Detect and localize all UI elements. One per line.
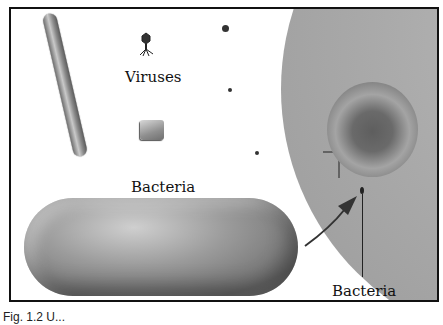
cubic-virus [140, 120, 164, 140]
bacteriophage-icon [140, 33, 153, 56]
red-blood-cell [327, 82, 418, 177]
bacteria-small-label: Bacteria [332, 282, 396, 300]
spherical-virus-small [228, 88, 232, 92]
leader-line [362, 194, 363, 277]
small-bacterium [360, 187, 364, 194]
large-bacterium [24, 198, 298, 296]
figure-caption: Fig. 1.2 U... [3, 310, 65, 324]
arrow-icon [305, 196, 357, 246]
viruses-label: Viruses [125, 68, 181, 86]
bacteria-label: Bacteria [131, 178, 195, 196]
spherical-virus-small [255, 151, 259, 155]
spherical-virus-large [222, 25, 229, 32]
